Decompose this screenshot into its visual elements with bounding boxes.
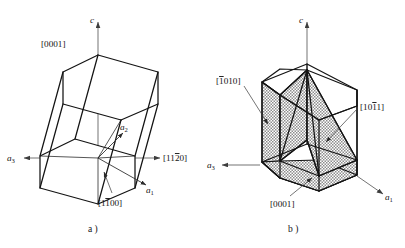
diagram-panel-b: c [1010] [1011] [0001] a3 a1 b ) bbox=[200, 0, 405, 248]
axis-label-a1-b: a1 bbox=[385, 192, 393, 203]
panel-caption-b: b ) bbox=[288, 224, 298, 235]
axis-label-a3-a: a3 bbox=[7, 153, 16, 164]
plane-label-10neg11-b: [1011] bbox=[360, 102, 384, 112]
direction-label-1-100-a: [1100] bbox=[98, 198, 122, 208]
panel-caption-a: a ) bbox=[88, 224, 98, 235]
diagram-panel-a: c [0001] [1120] [1100] a3 a2 a1 a ) bbox=[0, 0, 202, 248]
axis-label-a1-a: a1 bbox=[146, 185, 154, 196]
axis-label-c-a: c bbox=[90, 15, 94, 25]
axis-label-a3-b: a3 bbox=[207, 160, 216, 171]
plane-label-neg1010-b: [1010] bbox=[216, 76, 241, 86]
a1-axis-line-b bbox=[357, 176, 383, 194]
prism-top-face-a bbox=[63, 55, 158, 120]
direction-label-0001-a: [0001] bbox=[41, 39, 66, 49]
direction-label-11-20-a: [1120] bbox=[163, 153, 187, 163]
figure-root: c [0001] [1120] [1100] a3 a2 a1 a ) bbox=[0, 0, 405, 248]
axis-label-c-b: c bbox=[299, 15, 303, 25]
plane-label-0001-b: [0001] bbox=[270, 199, 295, 209]
prism-bottom-face-a bbox=[40, 139, 135, 204]
axis-label-a2-a: a2 bbox=[120, 122, 128, 133]
